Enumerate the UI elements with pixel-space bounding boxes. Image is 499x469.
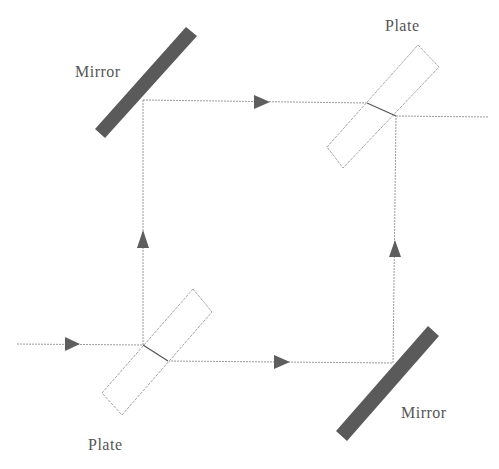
- arrow-right-icon: [274, 355, 290, 369]
- arrow-right-icon: [254, 95, 270, 109]
- right-arm-beam: [393, 116, 396, 363]
- mirror-bottom-right: [336, 326, 439, 441]
- plate-top-right: [327, 45, 439, 168]
- label-mirror-top-left: Mirror: [75, 63, 121, 80]
- input-beam: [17, 344, 143, 345]
- interferometer-diagram: Mirror Plate Plate Mirror: [0, 0, 499, 469]
- arrow-up-icon: [389, 240, 401, 257]
- output-beam: [396, 116, 488, 117]
- plate-bottom-left: [102, 289, 212, 415]
- label-mirror-bottom-right: Mirror: [401, 404, 447, 421]
- label-plate-top-right: Plate: [385, 17, 420, 34]
- arrow-up-icon: [137, 230, 149, 248]
- label-plate-bottom-left: Plate: [88, 436, 123, 453]
- mirror-top-left: [95, 27, 197, 138]
- arrow-right-icon: [65, 337, 80, 351]
